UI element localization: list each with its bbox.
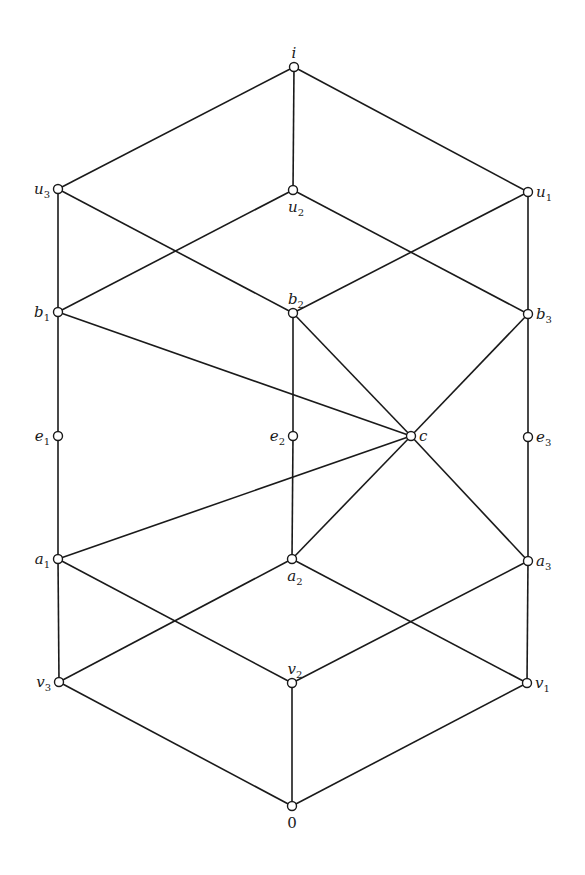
node-b1 — [54, 308, 63, 317]
node-u1 — [524, 188, 533, 197]
node-e1 — [54, 432, 63, 441]
node-a3 — [524, 557, 533, 566]
node-a2 — [288, 555, 297, 564]
edge-b3-c — [411, 314, 528, 436]
edge-i-u3 — [58, 67, 294, 189]
edge-a1-v3 — [58, 559, 59, 682]
edge-c-a3 — [411, 436, 528, 561]
node-label-u2: u2 — [288, 198, 304, 218]
edge-c-a2 — [292, 436, 411, 559]
node-label-a3: a3 — [536, 552, 551, 572]
edge-i-u1 — [294, 67, 528, 192]
node-label-c: c — [419, 427, 428, 445]
node-label-0: 0 — [287, 814, 297, 832]
edge-b1-c — [58, 312, 411, 436]
node-u3 — [54, 185, 63, 194]
lattice-diagram: iu3u2u1b1b2b3e1e2ce3a1a2a3v3v2v10 — [0, 0, 585, 875]
node-label-v1: v1 — [535, 674, 550, 694]
node-label-v2: v2 — [288, 660, 303, 680]
node-v1 — [523, 679, 532, 688]
node-b2 — [289, 309, 298, 318]
node-u2 — [289, 186, 298, 195]
node-v3 — [55, 678, 64, 687]
edge-a3-v1 — [527, 561, 528, 683]
edge-v3-0 — [59, 682, 292, 806]
edge-i-u2 — [293, 67, 294, 190]
node-label-u3: u3 — [34, 180, 50, 200]
node-label-a2: a2 — [287, 567, 302, 587]
edge-e2-a2 — [292, 436, 293, 559]
edge-v1-0 — [292, 683, 527, 806]
node-label-b3: b3 — [536, 305, 552, 325]
node-c — [407, 432, 416, 441]
node-label-u1: u1 — [536, 183, 552, 203]
node-b3 — [524, 310, 533, 319]
node-0 — [288, 802, 297, 811]
node-label-b2: b2 — [288, 290, 304, 310]
node-label-e2: e2 — [270, 427, 285, 447]
node-e2 — [289, 432, 298, 441]
node-label-e1: e1 — [35, 427, 50, 447]
node-label-b1: b1 — [34, 303, 50, 323]
node-label-e3: e3 — [536, 428, 551, 448]
node-label-a1: a1 — [35, 550, 50, 570]
node-e3 — [524, 433, 533, 442]
edge-c-a1 — [58, 436, 411, 559]
node-a1 — [54, 555, 63, 564]
node-label-v3: v3 — [36, 673, 51, 693]
node-i — [290, 63, 299, 72]
node-label-i: i — [292, 44, 297, 62]
edge-b2-c — [293, 313, 411, 436]
